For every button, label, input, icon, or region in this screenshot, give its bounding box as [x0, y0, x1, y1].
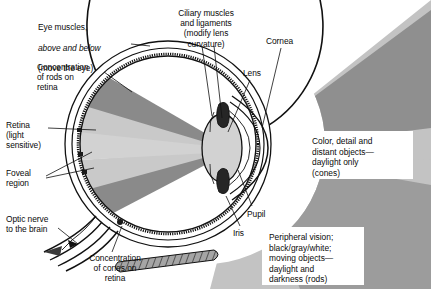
label-ciliary-muscles: Ciliary muscles and ligaments (modify le…: [160, 8, 252, 49]
label-eye-muscles-line2: above and below: [38, 43, 101, 53]
iris-upper: [217, 102, 230, 127]
callout-rods: Peripheral vision; black/gray/white; mov…: [262, 227, 364, 285]
label-iris: Iris: [233, 228, 244, 238]
label-lens: Lens: [243, 68, 261, 78]
callout-cones: Color, detail and distant objects— dayli…: [305, 131, 413, 179]
iris-lower: [217, 168, 230, 193]
label-retina: Retina (light sensitive): [6, 120, 41, 151]
label-pupil: Pupil: [247, 209, 265, 219]
label-concentration-rods: Concentration of rods on retina: [37, 62, 89, 93]
label-eye-muscles-line1: Eye muscles,: [38, 22, 87, 32]
label-foveal-region: Foveal region: [6, 168, 31, 188]
label-cornea: Cornea: [266, 36, 293, 46]
label-concentration-cones: Concentration of cones on retina: [60, 253, 170, 284]
eye-anatomy-figure: Eye muscles, above and below (move the e…: [0, 0, 431, 289]
optic-disc: [117, 219, 123, 225]
label-optic-nerve: Optic nerve to the brain: [6, 214, 48, 234]
